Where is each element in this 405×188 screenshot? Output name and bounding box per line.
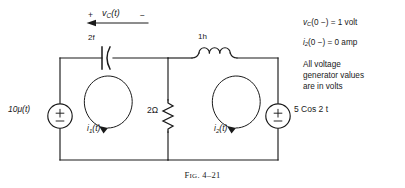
- capacitor-plate-curved: [107, 47, 110, 69]
- i1-arg: (t): [92, 123, 100, 133]
- note-initial-voltage: vC(0 −) = 1 volt: [303, 18, 364, 27]
- inductor-lead-left: [192, 53, 199, 58]
- source-right-value-text: 5 Cos 2 t: [294, 104, 328, 114]
- mesh-loop-2-arc: [212, 76, 260, 128]
- vc-label: vC(t): [102, 9, 120, 19]
- caption-rest: . 4–21: [197, 170, 220, 180]
- source-left-value-label: 10μ(t): [8, 105, 30, 114]
- inductor-coil-3: [220, 48, 230, 53]
- inductor-coil-2: [209, 48, 219, 53]
- resistor-zigzag: [163, 100, 173, 132]
- source-right-value-label: 5 Cos 2 t: [294, 105, 328, 114]
- inductor-value-label: 1h: [198, 33, 207, 41]
- capacitor-value-label: 2f: [88, 34, 95, 42]
- mesh-loop-2-arrowhead: [227, 126, 236, 134]
- inductor-lead-right: [230, 53, 237, 58]
- vc-minus-sign: −: [140, 11, 145, 20]
- inductor-coil-1: [199, 48, 209, 53]
- note-vc-rest: (0 −) = 1 volt: [311, 18, 357, 27]
- mesh-loop-1-arrowhead: [99, 126, 108, 134]
- note-paragraph: All voltage generator values are in volt…: [303, 59, 364, 92]
- i2-arg: (t): [219, 123, 227, 133]
- circuit-figure: 2f 1h 2Ω 10μ(t) 5 Cos 2 t + vC(t) − i1(t…: [0, 0, 405, 188]
- vc-plus-sign: +: [88, 11, 93, 20]
- note-paragraph-line-1: All voltage: [303, 59, 364, 70]
- annotation-notes: vC(0 −) = 1 volt i2(0 −) = 0 amp All vol…: [303, 18, 364, 92]
- note-initial-current: i2(0 −) = 0 amp: [303, 38, 364, 47]
- note-paragraph-line-3: are in volts: [303, 81, 364, 92]
- mesh-current-1-label: i1(t): [87, 124, 100, 134]
- vc-reference-arrowhead: [87, 20, 97, 26]
- figure-caption: FIG. 4–21: [0, 170, 405, 180]
- note-i2-rest: (0 −) = 0 amp: [308, 38, 357, 47]
- mesh-current-2-label: i2(t): [214, 124, 227, 134]
- mesh-loop-1-arc: [84, 76, 132, 128]
- vc-arg: (t): [111, 8, 120, 18]
- resistor-value-label: 2Ω: [147, 106, 158, 115]
- note-paragraph-line-2: generator values: [303, 70, 364, 81]
